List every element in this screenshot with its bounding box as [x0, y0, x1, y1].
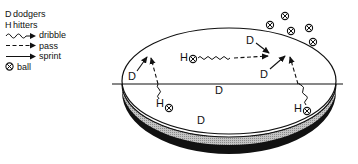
- court-svg: D H H D D H D D: [0, 0, 358, 164]
- ball-icon: [305, 24, 312, 31]
- ball-icon: [266, 21, 273, 28]
- hitter-label: H: [180, 51, 188, 63]
- dodger-label: D: [215, 84, 223, 96]
- hitter-label: H: [156, 97, 164, 109]
- ball-icon: [309, 38, 316, 45]
- hitter-label: H: [294, 102, 302, 114]
- ball-icon: [165, 104, 172, 111]
- dodger-label: D: [260, 68, 268, 80]
- ball-icon: [287, 27, 294, 34]
- dodger-label: D: [246, 34, 254, 46]
- court-ellipse: [122, 28, 336, 134]
- ball-icon: [303, 107, 310, 114]
- dodger-label: D: [128, 70, 136, 82]
- ball-icon: [281, 12, 288, 19]
- ball-icon: [189, 55, 196, 62]
- dodgeball-diagram: D dodgers H hitters dribble pass: [0, 0, 358, 164]
- dodger-label: D: [197, 114, 205, 126]
